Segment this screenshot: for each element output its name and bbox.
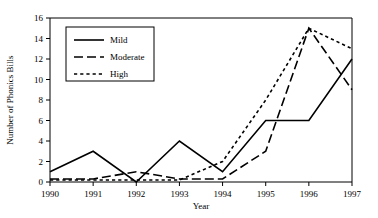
- y-tick-label: 16: [34, 13, 44, 23]
- x-tick-label: 1992: [127, 189, 145, 199]
- legend-label-moderate: Moderate: [110, 52, 144, 62]
- legend-label-high: High: [110, 69, 129, 79]
- chart-canvas: 0246810121416 19901991199219931994199519…: [0, 0, 378, 218]
- y-tick-label: 10: [34, 75, 44, 85]
- x-tick-label: 1994: [214, 189, 233, 199]
- y-tick-label: 4: [39, 136, 44, 146]
- y-tick-label: 14: [34, 34, 44, 44]
- x-axis-title: Year: [193, 201, 210, 211]
- x-tick-label: 1991: [84, 189, 102, 199]
- legend: MildModerateHigh: [66, 27, 154, 81]
- y-tick-label: 0: [39, 177, 44, 187]
- y-tick-label: 2: [39, 157, 44, 167]
- x-tick-label: 1996: [300, 189, 319, 199]
- y-tick-label: 6: [39, 116, 44, 126]
- x-tick-label: 1997: [343, 189, 362, 199]
- x-axis-ticks: 19901991199219931994199519961997: [41, 182, 362, 199]
- y-tick-label: 8: [39, 95, 44, 105]
- y-axis-ticks: 0246810121416: [34, 13, 50, 187]
- y-tick-label: 12: [34, 54, 43, 64]
- x-tick-label: 1993: [170, 189, 189, 199]
- legend-label-mild: Mild: [110, 35, 128, 45]
- x-tick-label: 1990: [41, 189, 60, 199]
- y-axis-title: Number of Phonics Bills: [5, 55, 15, 145]
- line-chart: 0246810121416 19901991199219931994199519…: [0, 0, 378, 218]
- x-tick-label: 1995: [257, 189, 276, 199]
